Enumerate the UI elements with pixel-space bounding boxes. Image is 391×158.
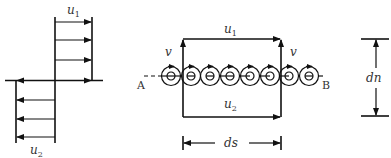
u1-label: u1 — [67, 3, 80, 19]
point-a-label: A — [136, 79, 146, 92]
vortex-sheet-diagram: u1 u2 u1 u2 v v A B — [0, 0, 391, 158]
dn-label: dn — [366, 71, 381, 85]
vortex-sheet: u1 u2 v v A B — [136, 22, 330, 150]
ds-dimension: ds — [183, 136, 281, 150]
u2-label: u2 — [30, 143, 43, 158]
point-b-label: B — [322, 79, 330, 92]
right-v-label: v — [290, 45, 297, 59]
left-v-label: v — [165, 45, 172, 59]
vortex-icon — [280, 66, 299, 85]
velocity-profile: u1 u2 — [5, 3, 103, 158]
dn-dimension: dn — [361, 39, 389, 116]
vortex-icon — [261, 66, 280, 85]
ds-label: ds — [224, 136, 238, 150]
vortex-row — [162, 66, 319, 85]
vortex-icon — [201, 66, 220, 85]
vortex-icon — [300, 66, 319, 85]
vortex-icon — [182, 66, 201, 85]
u1-label: u1 — [224, 22, 237, 38]
u2-label: u2 — [224, 97, 237, 113]
vortex-icon — [241, 66, 260, 85]
vortex-icon — [162, 66, 181, 85]
vortex-icon — [221, 66, 240, 85]
